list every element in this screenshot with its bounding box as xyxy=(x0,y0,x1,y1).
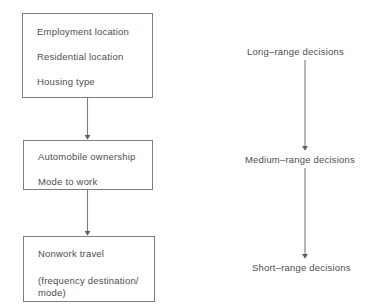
process-box-employment-text: Employment location Residential location… xyxy=(37,26,146,87)
horizon-label-short-range: Short–range decisions xyxy=(252,262,351,273)
box-line-residential-location: Residential location xyxy=(37,51,146,62)
box-line-mode-to-work: Mode to work xyxy=(38,176,146,187)
box-line-nonwork-travel: Nonwork travel xyxy=(38,248,148,259)
process-box-nonwork: Nonwork travel (frequency destination/ m… xyxy=(23,236,155,302)
horizon-label-long-range: Long–range decisions xyxy=(247,46,344,57)
box-line-housing-type: Housing type xyxy=(37,76,146,87)
box-line-automobile-ownership: Automobile ownership xyxy=(38,151,146,162)
box-line-employment-location: Employment location xyxy=(37,26,146,37)
process-box-automobile: Automobile ownership Mode to work xyxy=(23,140,153,190)
process-box-nonwork-text: Nonwork travel (frequency destination/ m… xyxy=(38,248,148,308)
box-line-frequency-destination-mode: (frequency destination/ mode) xyxy=(38,275,148,299)
process-box-employment: Employment location Residential location… xyxy=(22,13,153,98)
process-box-automobile-text: Automobile ownership Mode to work xyxy=(38,151,146,187)
diagram-canvas: Employment location Residential location… xyxy=(0,0,376,308)
horizon-label-medium-range: Medium–range decisions xyxy=(245,154,355,165)
